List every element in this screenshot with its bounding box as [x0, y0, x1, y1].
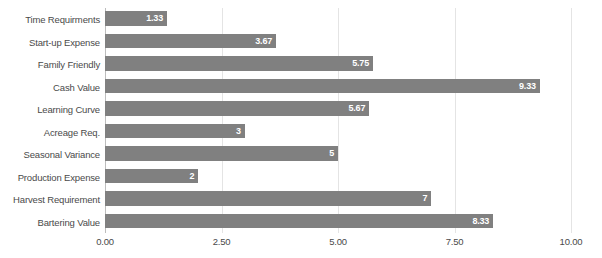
gridline-10.00 [571, 8, 572, 233]
bar-row: 3.67 [105, 31, 571, 54]
bar-row: 2 [105, 166, 571, 189]
category-axis-labels: Time RequirmentsStart-up ExpenseFamily F… [0, 8, 100, 233]
tick-label: 2.50 [213, 236, 231, 247]
bar-value-label: 2 [189, 169, 194, 184]
bar: 8.33 [105, 214, 493, 229]
bar-row: 3 [105, 121, 571, 144]
bar: 5.75 [105, 56, 373, 71]
bar: 7 [105, 191, 431, 206]
bar-value-label: 3.67 [255, 34, 272, 49]
bar-value-label: 9.33 [519, 79, 536, 94]
category-label: Seasonal Variance [0, 149, 100, 161]
bar-value-label: 5.67 [349, 101, 366, 116]
bar-row: 9.33 [105, 76, 571, 99]
bar-row: 7 [105, 188, 571, 211]
tick-label: 10.00 [560, 236, 583, 247]
bar-value-label: 3 [236, 124, 241, 139]
category-label: Learning Curve [0, 104, 100, 116]
tick-label: 5.00 [329, 236, 347, 247]
bar: 2 [105, 169, 198, 184]
bar: 5 [105, 146, 338, 161]
bar: 5.67 [105, 101, 369, 116]
category-label: Bartering Value [0, 217, 100, 229]
bar-row: 5 [105, 143, 571, 166]
bar: 9.33 [105, 79, 540, 94]
bar-row: 8.33 [105, 211, 571, 234]
bar-value-label: 5.75 [352, 56, 369, 71]
bar-value-label: 7 [422, 191, 427, 206]
bar-value-label: 1.33 [146, 11, 163, 26]
value-axis-tick-labels: 0.002.505.007.5010.00 [0, 236, 602, 256]
category-label: Start-up Expense [0, 37, 100, 49]
plot-area: 1.333.675.759.335.6735278.33 [105, 8, 571, 233]
bar-row: 5.67 [105, 98, 571, 121]
bar: 3 [105, 124, 245, 139]
bar-value-label: 8.33 [472, 214, 489, 229]
category-label: Harvest Requirement [0, 194, 100, 206]
category-label: Family Friendly [0, 59, 100, 71]
category-label: Cash Value [0, 82, 100, 94]
bar-value-label: 5 [329, 146, 334, 161]
category-label: Acreage Req. [0, 127, 100, 139]
bar-chart: Time RequirmentsStart-up ExpenseFamily F… [0, 0, 602, 258]
bar-row: 5.75 [105, 53, 571, 76]
category-label: Time Requirments [0, 14, 100, 26]
bar: 3.67 [105, 34, 276, 49]
tick-label: 7.50 [446, 236, 464, 247]
bar: 1.33 [105, 11, 167, 26]
tick-label: 0.00 [96, 236, 114, 247]
bars-layer: 1.333.675.759.335.6735278.33 [105, 8, 571, 233]
bar-row: 1.33 [105, 8, 571, 31]
category-label: Production Expense [0, 172, 100, 184]
